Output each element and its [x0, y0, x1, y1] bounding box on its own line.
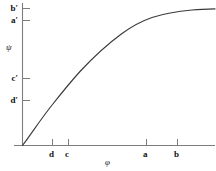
- y-tick-label-a-prime: a′: [2, 16, 18, 25]
- y-tick-label-d-prime: d′: [2, 96, 18, 105]
- plot-area: [0, 0, 216, 171]
- x-tick-label-b: b: [174, 150, 179, 159]
- y-tick-label-c-prime: c′: [2, 74, 18, 83]
- data-curve: [23, 9, 216, 146]
- x-tick-label-d: d: [49, 150, 54, 159]
- x-tick-label-c: c: [65, 150, 69, 159]
- y-axis-title: ψ: [6, 43, 12, 52]
- y-tick-label-b-prime: b′: [2, 4, 18, 13]
- x-tick-label-a: a: [143, 150, 148, 159]
- x-axis-title: φ: [105, 158, 110, 167]
- chart-figure: b′ a′ c′ d′ d c a b ψ φ: [0, 0, 216, 171]
